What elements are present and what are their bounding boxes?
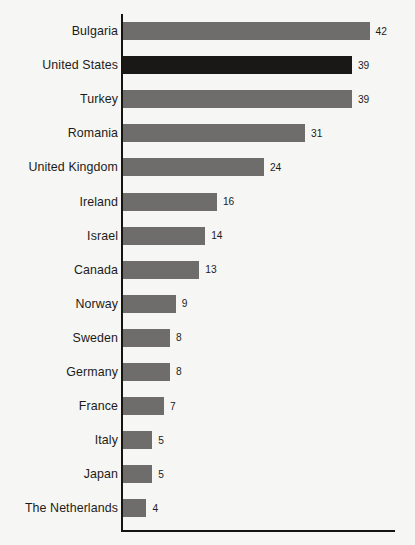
category-label: Bulgaria [72, 24, 118, 38]
category-label: Sweden [73, 331, 118, 345]
bar-track: 42 [123, 22, 387, 40]
bar-row: Germany8 [0, 355, 415, 389]
bar-track: 31 [123, 124, 322, 142]
bar-rows: Bulgaria42United States39Turkey39Romania… [0, 14, 415, 525]
bar-value-label: 31 [311, 128, 322, 139]
bar [123, 295, 176, 313]
bar-row: Japan5 [0, 457, 415, 491]
bar-value-label: 39 [358, 94, 369, 105]
bar-row: Turkey39 [0, 82, 415, 116]
bar-row: Romania31 [0, 116, 415, 150]
bar-value-label: 42 [376, 26, 387, 37]
category-label: Turkey [80, 92, 118, 106]
category-label: United States [42, 58, 118, 72]
bar-track: 39 [123, 56, 369, 74]
bar-track: 5 [123, 431, 164, 449]
bar-row: The Netherlands4 [0, 491, 415, 525]
bar [123, 465, 152, 483]
bar-row: Bulgaria42 [0, 14, 415, 48]
bar [123, 431, 152, 449]
bar-value-label: 9 [182, 298, 188, 309]
category-label: Israel [87, 229, 118, 243]
category-label: The Netherlands [25, 501, 118, 515]
category-label: France [79, 399, 118, 413]
bar [123, 363, 170, 381]
x-axis-line [121, 530, 395, 532]
bar-track: 13 [123, 261, 217, 279]
bar [123, 22, 370, 40]
bar-row: Norway9 [0, 287, 415, 321]
category-label: Italy [95, 433, 118, 447]
bar-row: France7 [0, 389, 415, 423]
bar-row: Israel14 [0, 219, 415, 253]
bar [123, 193, 217, 211]
bar [123, 56, 352, 74]
bar-value-label: 5 [158, 435, 164, 446]
bar-track: 24 [123, 158, 281, 176]
bar [123, 499, 146, 517]
bar-track: 7 [123, 397, 176, 415]
bar-value-label: 8 [176, 332, 182, 343]
bar-row: Ireland16 [0, 184, 415, 218]
bar-chart: Bulgaria42United States39Turkey39Romania… [0, 0, 415, 545]
bar-value-label: 39 [358, 60, 369, 71]
bar [123, 397, 164, 415]
bar [123, 227, 205, 245]
bar-row: Canada13 [0, 253, 415, 287]
bar [123, 124, 305, 142]
bar-value-label: 16 [223, 196, 234, 207]
bar [123, 261, 199, 279]
category-label: United Kingdom [28, 160, 118, 174]
bar-track: 9 [123, 295, 188, 313]
category-label: Romania [68, 126, 118, 140]
bar-row: Italy5 [0, 423, 415, 457]
bar-track: 14 [123, 227, 223, 245]
bar-value-label: 5 [158, 469, 164, 480]
category-label: Germany [66, 365, 118, 379]
bar-value-label: 24 [270, 162, 281, 173]
bar-track: 39 [123, 90, 369, 108]
bar-track: 4 [123, 499, 158, 517]
bar-row: Sweden8 [0, 321, 415, 355]
bar-value-label: 8 [176, 366, 182, 377]
category-label: Japan [84, 467, 118, 481]
bar-value-label: 4 [152, 503, 158, 514]
bar-track: 16 [123, 193, 234, 211]
bar-track: 5 [123, 465, 164, 483]
bar-row: United States39 [0, 48, 415, 82]
bar [123, 90, 352, 108]
bar-track: 8 [123, 329, 182, 347]
bar-value-label: 13 [205, 264, 216, 275]
bar-value-label: 14 [211, 230, 222, 241]
bar [123, 158, 264, 176]
bar [123, 329, 170, 347]
category-label: Norway [75, 297, 118, 311]
category-label: Ireland [79, 195, 118, 209]
category-label: Canada [74, 263, 118, 277]
bar-value-label: 7 [170, 401, 176, 412]
bar-track: 8 [123, 363, 182, 381]
bar-row: United Kingdom24 [0, 150, 415, 184]
